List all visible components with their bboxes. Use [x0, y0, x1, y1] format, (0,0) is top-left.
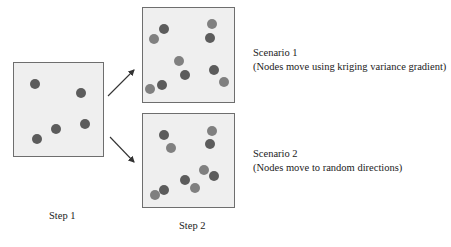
arrow-to-scenario2-icon	[110, 137, 134, 162]
step1-label: Step 1	[49, 209, 76, 222]
scenario2-description: (Nodes move to random directions)	[253, 161, 402, 174]
scenario1-description: (Nodes move using kriging variance gradi…	[253, 60, 446, 73]
scenario1-title: Scenario 1	[253, 46, 298, 59]
arrow-to-scenario1-icon	[108, 70, 134, 96]
step2-label: Step 2	[179, 219, 206, 232]
scenario2-title: Scenario 2	[253, 147, 298, 160]
